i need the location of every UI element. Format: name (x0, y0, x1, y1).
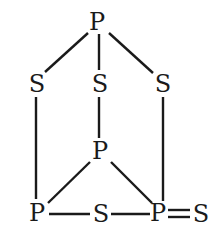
atom-s5: S (193, 200, 209, 228)
bond-p2-p3 (48, 162, 90, 203)
bond-p1-s1 (45, 33, 88, 72)
atom-p3: P (29, 199, 45, 227)
bonds-group (36, 33, 190, 217)
atom-s1: S (29, 70, 45, 98)
atom-p1: P (89, 8, 105, 36)
bond-p1-s3 (109, 33, 153, 73)
chemical-structure-diagram: P S S S P P S P S (0, 0, 218, 235)
atom-s2: S (92, 70, 108, 98)
bond-p2-p4 (111, 162, 152, 203)
atom-s3: S (155, 70, 171, 98)
atom-p4: P (150, 199, 166, 227)
atom-s4: S (93, 200, 109, 228)
atom-p2: P (92, 137, 108, 165)
